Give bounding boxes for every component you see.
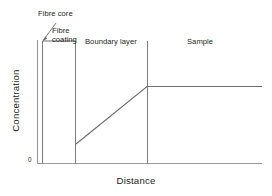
annotation-fibre-coating-line2: coating: [52, 35, 76, 44]
annotation-sample: Sample: [187, 37, 213, 46]
y-axis-title: Concentration: [11, 41, 20, 161]
y-axis-zero-tick-label: 0: [28, 155, 32, 164]
x-axis-title: Distance: [0, 176, 272, 185]
annotation-fibre-coating: Fibre coating: [52, 26, 76, 44]
concentration-profile-rise: [76, 87, 262, 145]
annotation-fibre-core: Fibre core: [38, 9, 73, 18]
annotation-fibre-coating-line1: Fibre: [52, 26, 76, 35]
annotation-boundary-layer: Boundary layer: [85, 37, 137, 46]
concentration-distance-diagram: Fibre core Fibre coating Boundary layer …: [0, 0, 272, 196]
plot-area: [0, 0, 272, 196]
